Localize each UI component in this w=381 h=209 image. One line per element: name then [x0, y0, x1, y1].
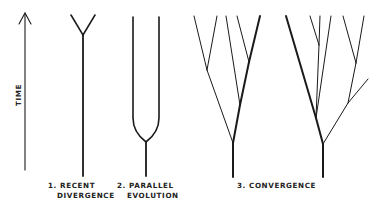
panel-2-label-line1: 2. PARALLEL: [117, 181, 174, 190]
panel-1-label-line2: DIVERGENCE: [57, 191, 115, 200]
branch-left: [71, 15, 83, 35]
evolution-patterns-diagram: TIME 1. RECENT: [0, 0, 381, 209]
branch: [207, 70, 233, 143]
branch: [207, 16, 217, 70]
lineage-left: [133, 17, 146, 142]
branch: [348, 63, 356, 103]
branch: [226, 16, 240, 105]
panel-2-label-line2: EVOLUTION: [127, 191, 179, 200]
branch: [323, 103, 348, 144]
lineage-right: [146, 17, 159, 142]
recent-divergence-figure: [71, 15, 95, 176]
branch-right: [83, 15, 95, 35]
parallel-evolution-figure: [133, 17, 159, 176]
panel-1-label-line1: 1. RECENT: [48, 181, 95, 190]
panel-3-label-line1: 3. CONVERGENCE: [237, 181, 316, 190]
branch: [319, 16, 320, 45]
branch: [356, 16, 364, 63]
branch-thick: [286, 16, 316, 118]
branch-thick: [233, 105, 240, 143]
convergence-tree-right: [286, 16, 368, 177]
branch-thick: [249, 16, 260, 62]
branch: [348, 79, 368, 103]
time-axis: TIME: [14, 13, 31, 170]
time-axis-label: TIME: [14, 84, 23, 106]
branch: [310, 16, 319, 45]
branch: [343, 16, 356, 63]
branch-thick: [316, 118, 323, 144]
branch-thick: [240, 62, 249, 105]
convergence-tree-left: [194, 16, 260, 177]
branch: [194, 16, 207, 70]
branch: [237, 16, 249, 62]
